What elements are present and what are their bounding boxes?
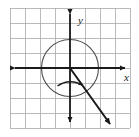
- coordinate-plane-figure: y x: [0, 0, 139, 137]
- x-axis-label: x: [123, 71, 129, 83]
- y-axis-label: y: [77, 14, 83, 26]
- coordinate-plane-canvas: y x: [0, 0, 139, 137]
